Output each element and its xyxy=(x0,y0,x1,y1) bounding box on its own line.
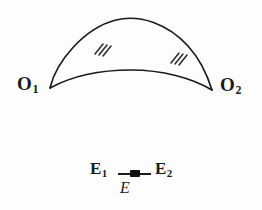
vertex-o2-subscript: 2 xyxy=(235,83,241,97)
segment-midpoint-label: E xyxy=(120,180,130,196)
segment-e1-letter: E xyxy=(90,159,101,178)
tick-mark-left-icon xyxy=(95,44,111,56)
segment-e2-letter: E xyxy=(155,159,166,178)
segment-connector xyxy=(118,169,151,179)
segment-midpoint-marker-icon xyxy=(130,170,140,177)
vertex-o2-letter: O xyxy=(220,74,235,95)
geometric-figure: O1 O2 E1 E2 E xyxy=(0,0,262,210)
tick-mark-right-icon xyxy=(171,53,187,65)
vertex-o1-letter: O xyxy=(17,73,32,94)
lower-arc xyxy=(50,70,212,90)
vertex-label-o2: O2 xyxy=(220,75,242,96)
vertex-o1-subscript: 1 xyxy=(32,82,38,96)
segment-endpoint-e1: E1 xyxy=(90,160,107,179)
vertex-label-o1: O1 xyxy=(17,74,39,95)
segment-endpoint-e2: E2 xyxy=(155,160,172,179)
segment-e2-subscript: 2 xyxy=(167,167,173,179)
segment-diagram: E1 E2 E xyxy=(84,156,184,206)
segment-e1-subscript: 1 xyxy=(102,167,108,179)
